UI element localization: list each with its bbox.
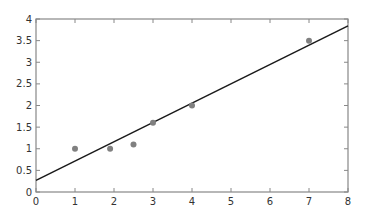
y-tick-label: 2.5 bbox=[16, 78, 32, 89]
y-tick-label: 4 bbox=[26, 14, 32, 25]
x-tick-label: 6 bbox=[267, 196, 273, 207]
x-axis-tick-labels: 012345678 bbox=[33, 196, 351, 207]
y-tick-label: 0.5 bbox=[16, 165, 32, 176]
y-tick-label: 1 bbox=[26, 143, 32, 154]
y-tick-label: 0 bbox=[26, 187, 32, 198]
scatter-chart: 012345678 00.511.522.533.54 bbox=[0, 0, 367, 219]
data-point bbox=[131, 141, 137, 147]
y-tick-label: 2 bbox=[26, 100, 32, 111]
x-tick-label: 4 bbox=[189, 196, 195, 207]
x-tick-label: 5 bbox=[228, 196, 234, 207]
y-tick-label: 3 bbox=[26, 57, 32, 68]
x-tick-label: 2 bbox=[111, 196, 117, 207]
x-tick-label: 0 bbox=[33, 196, 39, 207]
data-point bbox=[107, 146, 113, 152]
data-point bbox=[189, 103, 195, 109]
y-tick-label: 3.5 bbox=[16, 35, 32, 46]
x-tick-label: 1 bbox=[72, 196, 78, 207]
x-tick-label: 7 bbox=[306, 196, 312, 207]
data-point bbox=[150, 120, 156, 126]
data-point bbox=[306, 38, 312, 44]
x-tick-label: 8 bbox=[345, 196, 351, 207]
data-point bbox=[72, 146, 78, 152]
scatter-points-layer bbox=[72, 38, 312, 152]
y-tick-label: 1.5 bbox=[16, 122, 32, 133]
x-tick-label: 3 bbox=[150, 196, 156, 207]
y-axis-tick-labels: 00.511.522.533.54 bbox=[16, 14, 32, 198]
